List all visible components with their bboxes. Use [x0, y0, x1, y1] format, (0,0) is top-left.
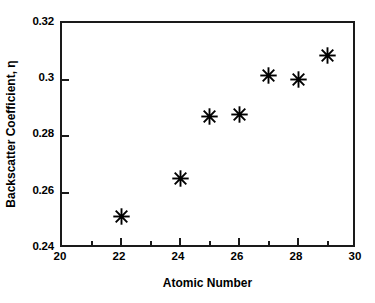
x-axis-minor-tick	[91, 241, 93, 245]
data-point-marker	[201, 108, 218, 125]
y-axis-title: Backscatter Coefficient, η	[2, 21, 20, 247]
y-tick-label: 0.32	[32, 16, 54, 27]
x-axis-minor-tick	[150, 241, 152, 245]
x-tick-label: 28	[276, 250, 316, 262]
x-tick-label: 24	[158, 250, 198, 262]
data-point-marker	[260, 67, 277, 84]
chart-figure: 0.32 0.3 0.28 0.26 0.24 20 22 24 26 28 3…	[0, 0, 375, 303]
plot-area	[60, 21, 355, 247]
x-axis-title: Atomic Number	[60, 276, 355, 290]
x-axis-minor-tick	[209, 241, 211, 245]
x-tick-label: 26	[217, 250, 257, 262]
data-point-marker	[172, 170, 189, 187]
x-tick-label: 20	[40, 250, 80, 262]
x-tick-label: 30	[335, 250, 375, 262]
x-axis-tick	[238, 238, 240, 245]
x-axis-minor-tick	[327, 241, 329, 245]
y-axis-tick	[62, 192, 69, 194]
x-axis-minor-tick	[268, 241, 270, 245]
x-axis-tick	[179, 238, 181, 245]
x-axis-tick	[120, 238, 122, 245]
data-point-marker	[231, 106, 248, 123]
y-tick-label: 0.26	[32, 185, 54, 196]
y-tick-label: 0.28	[32, 128, 54, 139]
data-point-marker	[113, 208, 130, 225]
x-axis-tick	[297, 238, 299, 245]
y-tick-label: 0.3	[39, 72, 54, 83]
x-tick-label: 22	[99, 250, 139, 262]
data-point-marker	[290, 71, 307, 88]
y-axis-tick	[62, 135, 69, 137]
y-axis-tick	[62, 79, 69, 81]
data-point-marker	[319, 47, 336, 64]
